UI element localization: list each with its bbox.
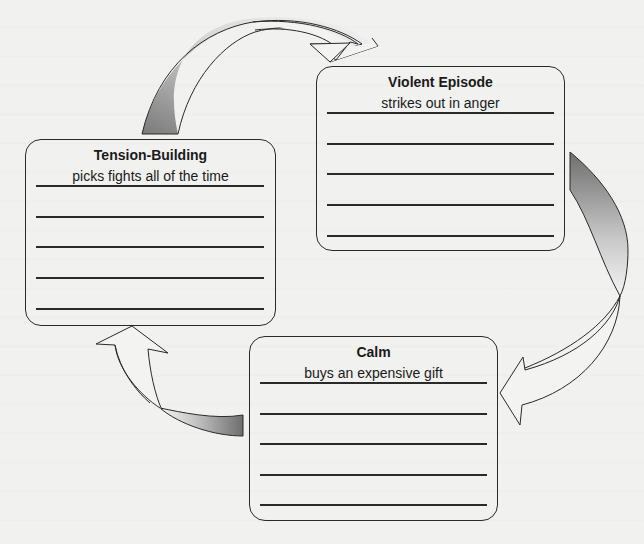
answer-line[interactable] bbox=[36, 308, 264, 310]
worksheet-page: Tension-Building picks fights all of the… bbox=[0, 0, 644, 544]
answer-line[interactable] bbox=[36, 246, 264, 248]
arrow-calm-to-tension bbox=[96, 326, 243, 436]
answer-line[interactable] bbox=[36, 216, 264, 218]
answer-line[interactable] bbox=[327, 143, 554, 145]
answer-line[interactable] bbox=[327, 112, 554, 114]
stage-box-calm: Calm buys an expensive gift bbox=[249, 336, 498, 521]
answer-line[interactable] bbox=[327, 235, 554, 237]
stage-example: strikes out in anger bbox=[317, 95, 564, 111]
answer-line[interactable] bbox=[260, 382, 487, 384]
answer-line[interactable] bbox=[260, 474, 487, 476]
answer-line[interactable] bbox=[327, 204, 554, 206]
answer-line[interactable] bbox=[36, 277, 264, 279]
stage-title: Calm bbox=[250, 344, 497, 360]
answer-line[interactable] bbox=[327, 173, 554, 175]
stage-example: picks fights all of the time bbox=[26, 168, 275, 184]
answer-line[interactable] bbox=[36, 185, 264, 187]
answer-line[interactable] bbox=[260, 443, 487, 445]
stage-title: Tension-Building bbox=[26, 147, 275, 163]
stage-example: buys an expensive gift bbox=[250, 365, 497, 381]
stage-box-violent-episode: Violent Episode strikes out in anger bbox=[316, 66, 565, 251]
stage-box-tension-building: Tension-Building picks fights all of the… bbox=[25, 139, 276, 326]
stage-title: Violent Episode bbox=[317, 74, 564, 90]
answer-line[interactable] bbox=[260, 413, 487, 415]
answer-line[interactable] bbox=[260, 504, 487, 506]
